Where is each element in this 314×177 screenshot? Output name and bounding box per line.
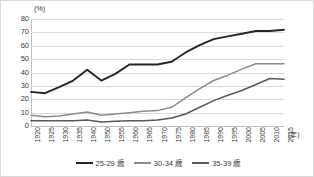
y-tick-label-10: 10 [3,109,29,117]
legend-label: 30-34 歳 [154,157,182,168]
legend-item-30-34歳[interactable]: 30-34 歳 [134,157,182,168]
x-tick-label-1985: 1985 [203,127,210,143]
legend-label: 25-29 歳 [96,157,124,168]
x-tick-label-2015: 2015 [287,127,294,143]
y-tick-label-0: 0 [3,122,29,130]
y-tick-label-70: 70 [3,29,29,37]
x-axis-tick-labels: 1920192519301935194019501955196019651970… [31,127,284,157]
x-tick-label-1995: 1995 [231,127,238,143]
x-tick-label-1970: 1970 [161,127,168,143]
x-tick-label-1980: 1980 [189,127,196,143]
x-tick-label-2000: 2000 [245,127,252,143]
x-tick-label-1965: 1965 [146,127,153,143]
y-tick-label-20: 20 [3,96,29,104]
y-tick-label-50: 50 [3,55,29,63]
x-tick-label-1955: 1955 [118,127,125,143]
x-tick-label-1990: 1990 [217,127,224,143]
chart-legend: 25-29 歳30-34 歳35-39 歳 [1,157,314,168]
legend-item-35-39歳[interactable]: 35-39 歳 [192,157,240,168]
x-tick-label-1960: 1960 [132,127,139,143]
x-tick-label-1975: 1975 [175,127,182,143]
plot-area [31,19,284,126]
x-tick-label-1930: 1930 [62,127,69,143]
x-tick-label-2010: 2010 [273,127,280,143]
y-axis-unit-label: (%) [34,4,45,13]
chart-container: (%) (年) 80706050403020100 19201925193019… [0,0,314,177]
y-tick-label-80: 80 [3,15,29,23]
x-tick-label-1935: 1935 [76,127,83,143]
legend-swatch-icon [192,162,209,164]
series-lines [31,19,284,126]
x-tick-label-2005: 2005 [259,127,266,143]
x-tick-label-1940: 1940 [90,127,97,143]
y-tick-label-40: 40 [3,69,29,77]
series-line-30-34歳 [31,64,284,117]
legend-swatch-icon [76,162,93,164]
y-axis-tick-labels: 80706050403020100 [1,19,29,126]
x-tick-label-1950: 1950 [104,127,111,143]
legend-label: 35-39 歳 [212,157,240,168]
y-tick-label-30: 30 [3,82,29,90]
x-tick-label-1925: 1925 [48,127,55,143]
series-line-35-39歳 [31,79,284,122]
x-tick-label-1920: 1920 [34,127,41,143]
y-tick-label-60: 60 [3,42,29,50]
line-series-svg [31,19,284,126]
legend-item-25-29歳[interactable]: 25-29 歳 [76,157,124,168]
legend-swatch-icon [134,162,151,164]
series-line-25-29歳 [31,30,284,94]
